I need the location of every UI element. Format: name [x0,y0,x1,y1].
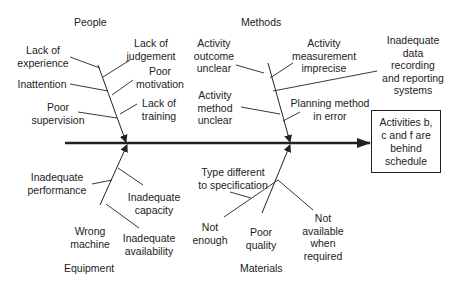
category-materials: Materials [240,262,283,274]
cause-inadequate-data-recording: Inadequatedatarecordingand reportingsyst… [376,34,450,97]
effect-box: Activities b, c and f are behind schedul… [371,110,441,173]
cause-inadequate-capacity: Inadequatecapacity [124,191,184,216]
cause-lack-of-training: Lack oftraining [137,97,181,122]
category-equipment: Equipment [64,262,114,274]
cause-type-different-to-specification: Type differentto specification [188,166,278,191]
cause-inattention: Inattention [16,78,68,91]
cause-activity-method-unclear: Activitymethodunclear [193,89,237,127]
cause-activity-measurement-imprecise: Activitymeasurementimprecise [290,37,358,75]
cause-not-available-when-required: Notavailablewhenrequired [298,212,348,262]
cause-poor-motivation: Poormotivation [134,65,186,90]
cause-not-enough: Notenough [190,221,230,246]
equipment-bone [100,145,127,205]
cause-lack-of-experience: Lack ofexperience [17,44,69,69]
people-bone [98,65,126,142]
methods-bone [268,63,290,142]
category-methods: Methods [241,16,281,28]
cause-poor-supervision: Poorsupervision [30,101,86,126]
cause-activity-outcome-unclear: Activityoutcomeunclear [190,37,238,75]
cause-inadequate-performance: Inadequateperformance [24,171,90,196]
cause-planning-method-in-error: Planning methodin error [290,97,370,122]
cause-wrong-machine: Wrongmachine [68,225,112,250]
cause-inadequate-availability: Inadequateavailability [118,232,180,257]
cause-lack-of-judgement: Lack ofjudgement [125,37,177,62]
category-people: People [74,16,107,28]
cause-poor-quality: Poorquality [243,226,279,251]
